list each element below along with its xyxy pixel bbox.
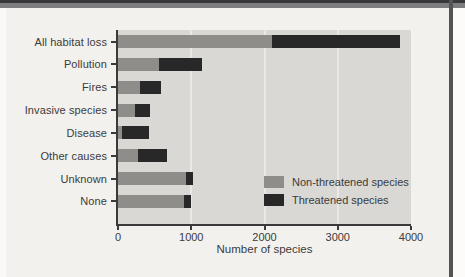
x-tickmark-3000 <box>337 226 339 230</box>
category-label: All habitat loss <box>0 35 116 48</box>
category-label-text: Unknown <box>60 173 107 185</box>
bar-row <box>118 81 411 94</box>
figure-border-right <box>449 0 453 277</box>
legend-swatch-non-threatened <box>264 176 284 188</box>
category-label-text: All habitat loss <box>34 36 107 48</box>
x-ticklabel-1000: 1000 <box>179 231 203 243</box>
category-label: Unknown <box>0 172 116 185</box>
legend: Non-threatened species Threatened specie… <box>264 176 409 212</box>
category-tick <box>111 200 116 202</box>
bar-row <box>118 35 411 48</box>
category-label: Pollution <box>0 58 116 71</box>
bar-row <box>118 104 411 117</box>
bar-row <box>118 58 411 71</box>
category-label: Other causes <box>0 149 116 162</box>
bar-segment-threatened <box>159 58 201 71</box>
legend-item-non-threatened: Non-threatened species <box>264 176 409 188</box>
figure-border-top <box>0 0 465 8</box>
legend-label-threatened: Threatened species <box>292 194 389 206</box>
x-tickmark-2000 <box>264 226 266 230</box>
category-label-text: Pollution <box>64 58 107 70</box>
legend-item-threatened: Threatened species <box>264 194 409 206</box>
category-label: Invasive species <box>0 104 116 117</box>
category-tick <box>111 132 116 134</box>
x-axis-title: Number of species <box>118 243 411 255</box>
x-tickmark-0 <box>117 226 119 230</box>
category-tick <box>111 63 116 65</box>
category-label-text: Invasive species <box>25 104 107 116</box>
category-label: None <box>0 195 116 208</box>
category-label: Disease <box>0 126 116 139</box>
x-tickmark-4000 <box>410 226 412 230</box>
category-tick <box>111 41 116 43</box>
category-label-text: Other causes <box>40 150 107 162</box>
category-tick <box>111 178 116 180</box>
x-ticklabel-4000: 4000 <box>399 231 423 243</box>
legend-label-non-threatened: Non-threatened species <box>292 176 409 188</box>
category-label-text: Fires <box>82 81 107 93</box>
bar-segment-threatened <box>122 126 149 139</box>
bar-segment-threatened <box>140 81 161 94</box>
legend-swatch-threatened <box>264 194 284 206</box>
bar-segment-threatened <box>138 149 167 162</box>
bar-segment-non-threatened <box>118 195 184 208</box>
category-tick <box>111 109 116 111</box>
bar-segment-non-threatened <box>118 104 135 117</box>
bar-segment-non-threatened <box>118 149 138 162</box>
bar-segment-non-threatened <box>118 81 140 94</box>
figure-panel: All habitat lossPollutionFiresInvasive s… <box>0 0 465 277</box>
category-tick <box>111 86 116 88</box>
bar-segment-threatened <box>186 172 193 185</box>
bar-row <box>118 149 411 162</box>
category-tick <box>111 155 116 157</box>
bar-segment-non-threatened <box>118 58 159 71</box>
x-tickmark-1000 <box>190 226 192 230</box>
category-label: Fires <box>0 81 116 94</box>
bar-segment-non-threatened <box>118 172 186 185</box>
x-ticklabel-3000: 3000 <box>326 231 350 243</box>
x-ticklabel-0: 0 <box>115 231 121 243</box>
category-label-text: None <box>80 195 107 207</box>
category-labels: All habitat lossPollutionFiresInvasive s… <box>0 30 116 224</box>
category-label-text: Disease <box>67 127 107 139</box>
bar-segment-threatened <box>135 104 150 117</box>
figure-margin-right <box>453 8 465 277</box>
bar-segment-threatened <box>272 35 400 48</box>
bar-row <box>118 126 411 139</box>
x-ticklabel-2000: 2000 <box>252 231 276 243</box>
bar-segment-threatened <box>184 195 191 208</box>
bar-segment-non-threatened <box>118 35 272 48</box>
